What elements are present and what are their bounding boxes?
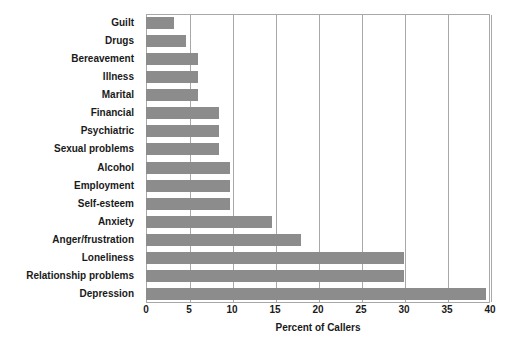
bar-row	[146, 50, 490, 68]
bar-row	[146, 122, 490, 140]
category-label-row: Relationship problems	[0, 267, 140, 285]
category-label-row: Marital	[0, 86, 140, 104]
category-label: Marital	[102, 90, 134, 100]
bar-row	[146, 140, 490, 158]
category-label: Loneliness	[82, 253, 134, 263]
bar-series	[146, 14, 490, 303]
category-label-row: Depression	[0, 285, 140, 303]
category-label: Depression	[80, 289, 134, 299]
category-label: Guilt	[111, 18, 134, 28]
x-axis-title: Percent of Callers	[146, 322, 490, 333]
category-label-row: Loneliness	[0, 249, 140, 267]
x-tick-label: 15	[269, 305, 280, 315]
category-label-row: Sexual problems	[0, 140, 140, 158]
bar	[146, 216, 272, 228]
bar-row	[146, 249, 490, 267]
bar-row	[146, 177, 490, 195]
category-label: Drugs	[105, 36, 134, 46]
bar-row	[146, 86, 490, 104]
category-label-row: Bereavement	[0, 50, 140, 68]
category-label: Financial	[91, 108, 134, 118]
bar	[146, 17, 174, 29]
bar	[146, 53, 198, 65]
bar	[146, 198, 230, 210]
category-label-row: Employment	[0, 177, 140, 195]
bar-row	[146, 267, 490, 285]
bar-row	[146, 159, 490, 177]
value-axis-ticks: 0510152025303540	[146, 305, 490, 319]
category-label-row: Illness	[0, 68, 140, 86]
x-tick-label: 30	[398, 305, 409, 315]
category-label: Sexual problems	[54, 144, 134, 154]
bar-row	[146, 104, 490, 122]
category-label-row: Drugs	[0, 32, 140, 50]
category-label: Relationship problems	[26, 271, 134, 281]
category-axis-labels: GuiltDrugsBereavementIllnessMaritalFinan…	[0, 14, 140, 303]
category-label: Anxiety	[98, 217, 134, 227]
bar-row	[146, 231, 490, 249]
bar	[146, 107, 219, 119]
category-label: Anger/frustration	[52, 235, 134, 245]
category-label-row: Guilt	[0, 14, 140, 32]
bar-row	[146, 285, 490, 303]
x-tick-label: 0	[143, 305, 149, 315]
bar-row	[146, 32, 490, 50]
bar	[146, 162, 230, 174]
bar	[146, 71, 198, 83]
bar-row	[146, 68, 490, 86]
bar	[146, 234, 301, 246]
x-tick-label: 35	[441, 305, 452, 315]
category-label: Psychiatric	[81, 126, 134, 136]
x-tick-label: 25	[355, 305, 366, 315]
bar-row	[146, 14, 490, 32]
category-label-row: Alcohol	[0, 159, 140, 177]
category-label: Employment	[74, 181, 134, 191]
bar	[146, 89, 198, 101]
bar	[146, 143, 219, 155]
gridline-40	[491, 15, 492, 302]
category-label-row: Financial	[0, 104, 140, 122]
x-tick-label: 20	[312, 305, 323, 315]
category-label: Self-esteem	[78, 199, 134, 209]
category-label: Alcohol	[97, 163, 134, 173]
x-tick-label: 40	[484, 305, 495, 315]
category-label-row: Self-esteem	[0, 195, 140, 213]
category-label: Bereavement	[71, 54, 134, 64]
bar	[146, 288, 486, 300]
bar	[146, 270, 404, 282]
x-tick-label: 10	[226, 305, 237, 315]
category-label-row: Anxiety	[0, 213, 140, 231]
bar	[146, 180, 230, 192]
bar	[146, 252, 404, 264]
bar-chart: GuiltDrugsBereavementIllnessMaritalFinan…	[0, 0, 512, 356]
bar	[146, 35, 186, 47]
bar	[146, 125, 219, 137]
category-label-row: Psychiatric	[0, 122, 140, 140]
bar-row	[146, 213, 490, 231]
category-label: Illness	[103, 72, 134, 82]
category-label-row: Anger/frustration	[0, 231, 140, 249]
bar-row	[146, 195, 490, 213]
x-tick-label: 5	[186, 305, 192, 315]
